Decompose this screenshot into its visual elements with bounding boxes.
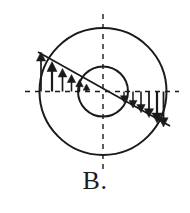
stress-arrow bbox=[36, 52, 45, 92]
stress-arrow bbox=[67, 75, 75, 92]
figure-label: B. bbox=[0, 168, 190, 194]
left-arrow-group bbox=[36, 52, 90, 92]
stress-distribution-line bbox=[38, 52, 170, 126]
stress-arrow bbox=[83, 84, 90, 92]
stress-arrow bbox=[76, 80, 84, 92]
stress-arrow bbox=[58, 69, 67, 92]
figure-container: B. bbox=[0, 0, 190, 213]
stress-arrow bbox=[47, 62, 57, 92]
